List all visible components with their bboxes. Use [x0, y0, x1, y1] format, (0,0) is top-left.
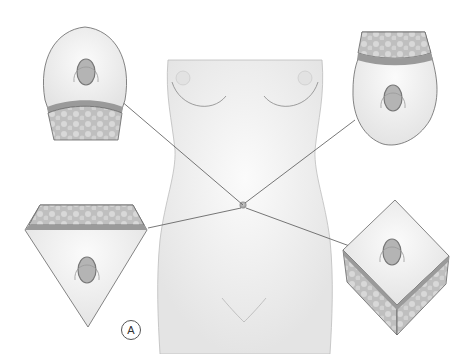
torso: [158, 60, 333, 354]
panel-label: A: [121, 320, 141, 340]
illustration: [0, 0, 471, 354]
right-nipple: [298, 71, 312, 85]
flap-bottom-left: [25, 205, 147, 327]
flap-top-right: [353, 32, 437, 145]
flap-bottom-right: [343, 200, 449, 335]
flap-top-left: [43, 27, 126, 140]
left-nipple: [176, 71, 190, 85]
